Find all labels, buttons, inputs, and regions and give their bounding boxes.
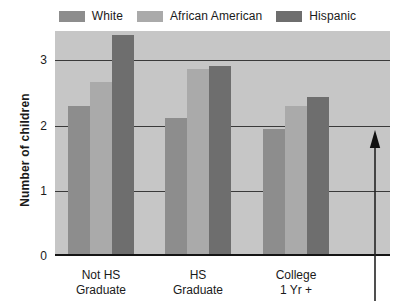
up-arrow-icon (366, 128, 384, 301)
y-tick-label-0: 0 (40, 250, 47, 262)
x-label-line-2: 1 Yr + (246, 283, 346, 298)
x-label-line-2: Graduate (51, 283, 151, 298)
bar-white-group-3 (263, 129, 285, 255)
x-axis-labels: Not HSGraduateHSGraduateCollege1 Yr + (55, 262, 390, 300)
y-tick-label-1: 1 (40, 185, 47, 197)
y-axis: Number of children 0123 (0, 0, 55, 301)
legend-swatch-african-american-icon (137, 11, 163, 22)
bar-white-group-2 (165, 118, 187, 255)
legend-label-white: White (92, 10, 123, 22)
legend-label-african-american: African American (170, 10, 262, 22)
legend-swatch-white-icon (59, 11, 85, 22)
bar-african-american-group-3 (285, 106, 307, 255)
x-axis-group-label-3: College1 Yr + (246, 268, 346, 298)
x-label-line-2: Graduate (148, 283, 248, 298)
x-axis-group-label-2: HSGraduate (148, 268, 248, 298)
y-tick-label-2: 2 (40, 120, 47, 132)
chart-legend: White African American Hispanic (0, 6, 415, 26)
legend-entry-hispanic: Hispanic (276, 10, 356, 22)
legend-swatch-hispanic-icon (276, 11, 302, 22)
legend-label-hispanic: Hispanic (309, 10, 356, 22)
bar-hispanic-group-1 (112, 35, 134, 255)
x-axis-line (55, 254, 390, 256)
legend-entry-african-american: African American (137, 10, 262, 22)
bars-layer (55, 31, 390, 256)
bar-african-american-group-1 (90, 82, 112, 255)
x-label-line-1: Not HS (51, 268, 151, 283)
x-label-line-1: HS (148, 268, 248, 283)
bar-white-group-1 (68, 106, 90, 255)
plot-area (55, 31, 390, 256)
x-label-line-1: College (246, 268, 346, 283)
legend-entry-white: White (59, 10, 123, 22)
bar-hispanic-group-3 (307, 97, 329, 255)
y-tick-label-3: 3 (40, 54, 47, 66)
bar-hispanic-group-2 (209, 66, 231, 255)
bar-african-american-group-2 (187, 69, 209, 255)
y-axis-title: Number of children (18, 75, 32, 225)
up-arrow-annotation (366, 128, 384, 301)
x-axis-group-label-1: Not HSGraduate (51, 268, 151, 298)
